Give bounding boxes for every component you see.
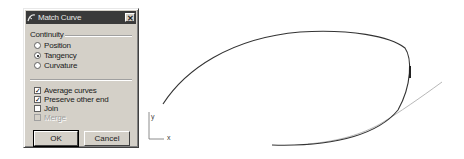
curve-viewport[interactable]: y x [140, 0, 464, 159]
continuity-group-label: Continuity [30, 30, 64, 39]
checkbox-label: Preserve other end [44, 95, 108, 104]
radio-label: Position [44, 41, 71, 50]
continuity-group-divider [65, 35, 132, 37]
match-curve-dialog: Match Curve ✕ Continuity Position Tangen… [23, 8, 139, 148]
radio-position[interactable]: Position [34, 41, 71, 50]
dialog-title: Match Curve [38, 11, 125, 24]
checkbox-average-curves[interactable]: ✓ Average curves [34, 86, 97, 95]
checkbox-checked-icon[interactable]: ✓ [34, 96, 41, 103]
checkbox-label: Merge [44, 113, 66, 122]
radio-button-selected[interactable] [34, 52, 41, 59]
close-button[interactable]: ✕ [125, 13, 135, 22]
checkbox-disabled-icon [34, 114, 41, 121]
options-divider [30, 79, 132, 81]
radio-button[interactable] [34, 62, 41, 69]
radio-label: Curvature [44, 61, 77, 70]
checkbox-label: Average curves [44, 86, 97, 95]
checkbox-checked-icon[interactable]: ✓ [34, 87, 41, 94]
checkbox-join[interactable]: Join [34, 104, 58, 113]
checkbox-preserve-other-end[interactable]: ✓ Preserve other end [34, 95, 108, 104]
secondary-curve [308, 82, 442, 144]
y-axis-label: y [151, 113, 155, 120]
checkbox-merge: Merge [34, 113, 66, 122]
checkbox-label: Join [44, 104, 58, 113]
x-axis-label: x [167, 134, 171, 141]
checkbox-unchecked-icon[interactable] [34, 105, 41, 112]
radio-curvature[interactable]: Curvature [34, 61, 77, 70]
cancel-button[interactable]: Cancel [84, 131, 130, 146]
ok-button[interactable]: OK [34, 131, 78, 146]
dialog-titlebar[interactable]: Match Curve ✕ [26, 11, 136, 24]
curves-canvas[interactable] [140, 0, 464, 159]
radio-label: Tangency [44, 51, 77, 60]
radio-button[interactable] [34, 42, 41, 49]
radio-tangency[interactable]: Tangency [34, 51, 77, 60]
match-curve-icon [27, 13, 37, 23]
